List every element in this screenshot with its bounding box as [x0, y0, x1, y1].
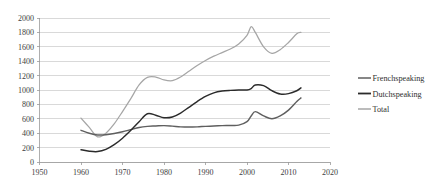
x-tick-label-2010: 2010	[281, 168, 297, 177]
x-tick-label-1960: 1960	[73, 168, 89, 177]
y-tick-label-800: 800	[22, 100, 34, 109]
series-line-total	[81, 27, 301, 137]
y-tick-label-1600: 1600	[18, 43, 34, 52]
legend-label-frenchspeaking: Frenchspeaking	[373, 74, 425, 83]
y-tick-label-600: 600	[22, 115, 34, 124]
x-tick-label-1990: 1990	[198, 168, 214, 177]
x-tick-label-2020: 2020	[322, 168, 338, 177]
series-line-frenchspeaking	[81, 98, 301, 135]
chart-canvas: 0200400600800100012001400160018002000195…	[0, 0, 444, 191]
x-tick-label-1950: 1950	[32, 168, 48, 177]
x-axis: 19501960197019801990200020102020	[32, 162, 339, 177]
y-tick-label-200: 200	[22, 144, 34, 153]
line-chart: 0200400600800100012001400160018002000195…	[0, 0, 444, 191]
y-tick-label-1200: 1200	[18, 72, 34, 81]
legend-label-total: Total	[373, 105, 390, 114]
x-tick-label-2000: 2000	[239, 168, 255, 177]
gridlines	[40, 18, 331, 162]
y-tick-label-1400: 1400	[18, 57, 34, 66]
legend: FrenchspeakingDutchspeakingTotal	[358, 74, 424, 114]
y-axis: 0200400600800100012001400160018002000	[18, 14, 40, 167]
x-tick-label-1980: 1980	[156, 168, 172, 177]
legend-label-dutchspeaking: Dutchspeaking	[373, 90, 422, 99]
y-tick-label-1000: 1000	[18, 86, 34, 95]
y-tick-label-1800: 1800	[18, 28, 34, 37]
y-tick-label-400: 400	[22, 129, 34, 138]
y-tick-label-2000: 2000	[18, 14, 34, 23]
y-tick-label-0: 0	[30, 158, 34, 167]
x-tick-label-1970: 1970	[115, 168, 131, 177]
